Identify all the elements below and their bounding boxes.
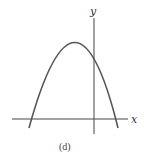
x-axis-label: x bbox=[131, 113, 138, 126]
y-axis-label: y bbox=[89, 5, 97, 18]
figure-caption: (d) bbox=[59, 141, 71, 153]
parabola-graph: y x (d) bbox=[0, 0, 144, 162]
parabola-curve bbox=[29, 43, 118, 129]
